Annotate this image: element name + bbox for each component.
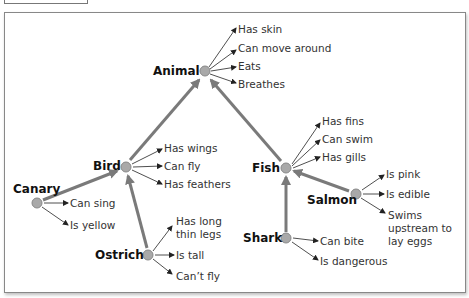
- node-shark: [281, 233, 291, 243]
- prop-shark-2: Is dangerous: [320, 255, 387, 267]
- label-animal: Animal: [153, 64, 200, 78]
- prop-salmon-2: Is edible: [386, 188, 430, 200]
- label-bird: Bird: [93, 159, 121, 173]
- prop-ostrich-1a: Has long: [176, 215, 222, 227]
- prop-salmon-3a: Swims: [388, 209, 422, 221]
- prop-animal-2: Can move around: [238, 42, 331, 54]
- label-salmon: Salmon: [307, 193, 357, 207]
- prop-bird-3: Has feathers: [164, 178, 231, 190]
- prop-ostrich-3: Can’t fly: [176, 270, 220, 282]
- edge-fish-animal: [211, 80, 281, 161]
- semantic-network-diagram: Animal Bird Fish Canary Ostrich Salmon S…: [0, 0, 469, 298]
- prop-salmon-3c: lay eggs: [388, 235, 432, 247]
- label-fish: Fish: [252, 161, 280, 175]
- label-ostrich: Ostrich: [95, 248, 144, 262]
- node-animal: [200, 66, 210, 76]
- label-canary: Canary: [13, 182, 60, 196]
- prop-canary-2: Is yellow: [70, 219, 116, 231]
- prop-animal-3: Eats: [238, 60, 261, 72]
- node-canary: [32, 198, 42, 208]
- node-bird: [121, 162, 131, 172]
- prop-salmon-1: Is pink: [386, 168, 421, 180]
- node-fish: [281, 163, 291, 173]
- prop-bird-1: Has wings: [164, 142, 217, 154]
- edge-salmon-fish: [294, 171, 349, 191]
- prop-fish-1: Has fins: [322, 115, 364, 127]
- prop-bird-2: Can fly: [164, 160, 201, 172]
- prop-animal-1: Has skin: [238, 23, 282, 35]
- prop-ostrich-2: Is tall: [176, 249, 204, 261]
- prop-animal-4: Breathes: [238, 78, 285, 90]
- edge-ostrich-bird: [128, 176, 147, 248]
- prop-ostrich-1b: thin legs: [176, 228, 221, 240]
- prop-shark-1: Can bite: [320, 235, 364, 247]
- prop-fish-2: Can swim: [322, 133, 373, 145]
- prop-salmon-3b: upstream to: [388, 222, 452, 234]
- label-shark: Shark: [243, 231, 283, 245]
- prop-fish-3: Has gills: [322, 151, 366, 163]
- node-ostrich: [143, 250, 153, 260]
- prop-canary-1: Can sing: [70, 197, 115, 209]
